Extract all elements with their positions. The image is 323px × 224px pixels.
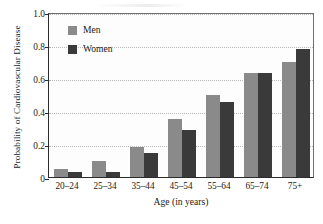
legend-label: Men (83, 25, 101, 35)
scan-artifact (96, 4, 246, 7)
cardiovascular-disease-bar-chart: Probability of Cardiovascular Disease 00… (0, 0, 323, 224)
bar-women (182, 130, 196, 177)
bar-group (201, 14, 239, 177)
x-tick-label: 75+ (288, 181, 303, 191)
x-tick-label: 45–54 (169, 181, 192, 191)
bar-men (244, 73, 258, 177)
x-tick-label: 20–24 (55, 181, 78, 191)
bar-women (144, 153, 158, 177)
bar-women (106, 172, 120, 177)
legend-swatch-icon (68, 26, 77, 35)
bar-women (258, 73, 272, 177)
x-tick-label: 25–34 (93, 181, 116, 191)
y-tick-mark (45, 179, 49, 180)
bar-women (68, 172, 82, 177)
legend-item-women: Women (68, 41, 113, 57)
legend: MenWomen (68, 22, 113, 60)
legend-item-men: Men (68, 22, 113, 38)
bar-men (206, 95, 220, 178)
bar-group (125, 14, 163, 177)
bar-women (296, 49, 310, 177)
y-axis-title: Probability of Cardiovascular Disease (12, 4, 22, 190)
bar-group (163, 14, 201, 177)
x-axis-title: Age (in years) (48, 196, 314, 207)
x-tick-label: 35–44 (131, 181, 154, 191)
legend-swatch-icon (68, 45, 77, 54)
legend-label: Women (83, 44, 113, 54)
bar-men (168, 119, 182, 177)
x-tick-label: 65–74 (245, 181, 268, 191)
bar-group (277, 14, 315, 177)
bar-women (220, 102, 234, 177)
bar-men (130, 147, 144, 177)
bar-group (239, 14, 277, 177)
bar-men (282, 62, 296, 177)
bar-men (54, 169, 68, 177)
x-tick-label: 55–64 (207, 181, 230, 191)
bar-men (92, 161, 106, 178)
